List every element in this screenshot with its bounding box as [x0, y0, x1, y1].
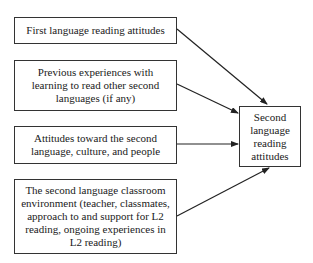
source-label: Previous experiences with learning to re…	[21, 66, 170, 105]
target-box-second-language-reading-attitudes: Second language reading attitudes	[239, 106, 301, 167]
source-box-classroom-environment: The second language classroom environmen…	[14, 179, 177, 254]
arrow-s2-to-target	[177, 84, 238, 113]
target-label: Second language reading attitudes	[244, 111, 296, 163]
source-label: Attitudes toward the second language, cu…	[21, 132, 170, 158]
source-box-attitudes-culture: Attitudes toward the second language, cu…	[14, 126, 177, 164]
source-box-first-language: First language reading attitudes	[14, 17, 177, 44]
source-box-previous-experiences: Previous experiences with learning to re…	[14, 60, 177, 111]
source-label: The second language classroom environmen…	[21, 184, 170, 249]
arrow-s1-to-target	[177, 29, 267, 104]
arrow-s4-to-target	[177, 168, 269, 216]
source-label: First language reading attitudes	[26, 24, 164, 37]
